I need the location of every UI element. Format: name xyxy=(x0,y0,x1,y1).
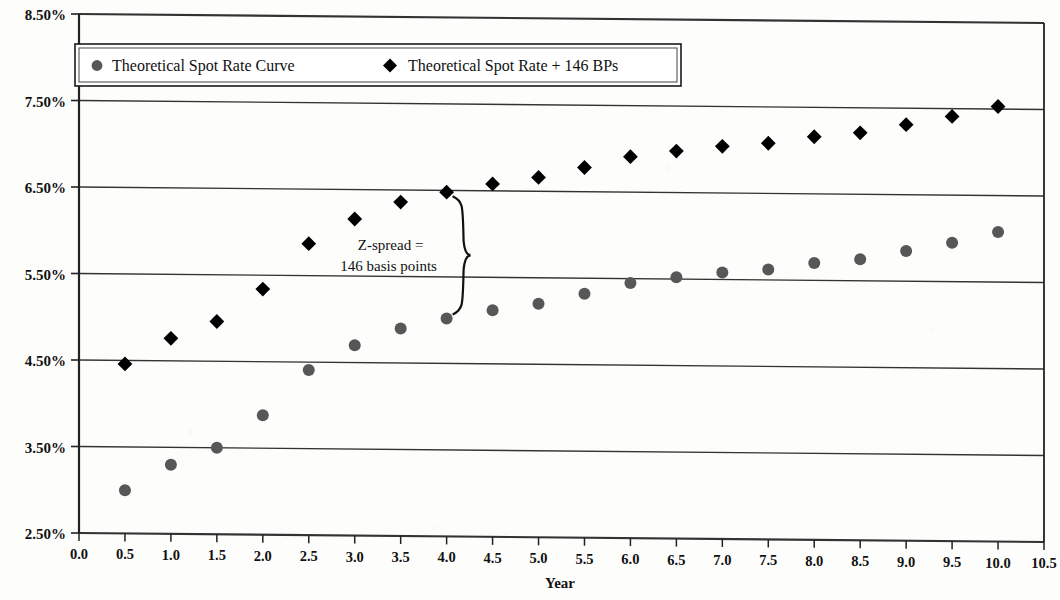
y-tick-label: 3.50% xyxy=(25,440,66,456)
data-point-circle xyxy=(119,484,131,496)
data-point-circle xyxy=(900,245,912,257)
x-tick-label: 0.5 xyxy=(116,546,134,562)
legend-label-spot-rate: Theoretical Spot Rate Curve xyxy=(112,57,295,75)
data-point-circle xyxy=(211,442,223,454)
data-point-circle xyxy=(716,267,728,279)
x-tick-label: 4.5 xyxy=(484,550,502,566)
data-point-circle xyxy=(670,271,682,283)
x-tick-label: 3.5 xyxy=(392,549,410,565)
data-point-circle xyxy=(349,339,361,351)
x-tick-label: 1.5 xyxy=(208,547,226,563)
data-point-circle xyxy=(395,322,407,334)
x-tick-label: 6.0 xyxy=(621,551,639,567)
x-tick-label: 1.0 xyxy=(162,547,180,563)
spot-rate-chart: 8.50%7.50%6.50%5.50%4.50%3.50%2.50% 0.00… xyxy=(0,0,1060,600)
x-axis-title: Year xyxy=(545,575,575,591)
y-tick-label: 6.50% xyxy=(25,180,66,196)
data-point-circle xyxy=(854,253,866,265)
data-point-circle xyxy=(578,288,590,300)
data-point-circle xyxy=(533,298,545,310)
y-tick-label: 4.50% xyxy=(25,353,66,369)
data-point-circle xyxy=(762,264,774,276)
legend-label-spot-plus-spread: Theoretical Spot Rate + 146 BPs xyxy=(408,57,618,75)
x-tick-label: 2.5 xyxy=(300,548,318,564)
chart-legend: Theoretical Spot Rate Curve Theoretical … xyxy=(75,44,681,86)
data-point-circle xyxy=(303,364,315,376)
data-point-circle xyxy=(808,257,820,269)
data-point-circle xyxy=(624,277,636,289)
x-tick-label: 8.0 xyxy=(805,553,823,569)
y-tick-label: 2.50% xyxy=(25,526,66,542)
chart-canvas: 8.50%7.50%6.50%5.50%4.50%3.50%2.50% 0.00… xyxy=(0,0,1060,600)
x-tick-label: 7.0 xyxy=(713,552,731,568)
x-tick-label: 4.0 xyxy=(438,549,456,565)
data-point-circle xyxy=(165,459,177,471)
data-point-circle xyxy=(257,409,269,421)
y-tick-label: 8.50% xyxy=(25,7,66,23)
annotation-line-1: Z-spread = xyxy=(358,237,424,253)
data-point-circle xyxy=(487,304,499,316)
x-tick-label: 3.0 xyxy=(346,549,364,565)
y-tick-label: 7.50% xyxy=(25,94,66,110)
annotation-line-2: 146 basis points xyxy=(340,258,437,274)
x-tick-label: 8.5 xyxy=(851,553,869,569)
x-tick-label: 2.0 xyxy=(254,548,272,564)
data-point-circle xyxy=(441,312,453,324)
data-point-circle xyxy=(992,226,1004,238)
data-point-circle xyxy=(946,237,958,249)
x-tick-label: 5.0 xyxy=(529,550,547,566)
x-tick-label: 6.5 xyxy=(667,552,685,568)
y-tick-label: 5.50% xyxy=(25,267,66,283)
x-tick-label: 7.5 xyxy=(759,552,777,568)
x-tick-label: 5.5 xyxy=(575,551,593,567)
x-tick-label: 10.0 xyxy=(985,555,1010,571)
x-tick-label: 0.0 xyxy=(70,546,88,562)
x-tick-label: 10.5 xyxy=(1031,555,1056,571)
x-tick-label: 9.5 xyxy=(943,554,961,570)
chart-background xyxy=(0,0,1060,600)
x-tick-label: 9.0 xyxy=(897,554,915,570)
legend-circle-marker-icon xyxy=(92,60,103,71)
